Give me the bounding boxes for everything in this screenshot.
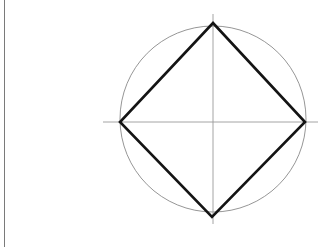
geometry-figure xyxy=(0,0,328,247)
scanned-page xyxy=(0,0,328,247)
